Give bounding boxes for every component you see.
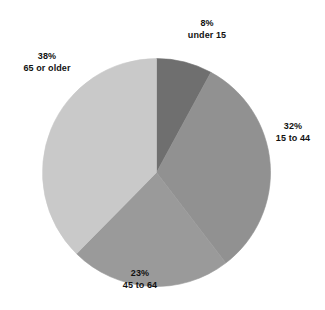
pie-graphic	[0, 0, 325, 310]
pie-label-15-to-44-category: 15 to 44	[262, 132, 324, 144]
pie-label-45-to-64-percent: 23%	[100, 267, 180, 279]
pie-label-45-to-64-category: 45 to 64	[100, 279, 180, 291]
pie-slices	[43, 59, 271, 287]
pie-label-under-15: 8% under 15	[172, 17, 242, 41]
pie-label-under-15-category: under 15	[172, 29, 242, 41]
pie-chart: · · · · · · · · · · · 8% under 15 32% 15…	[0, 0, 325, 310]
pie-label-15-to-44-percent: 32%	[262, 120, 324, 132]
pie-label-45-to-64: 23% 45 to 64	[100, 267, 180, 291]
pie-label-65-or-older-percent: 38%	[6, 50, 88, 62]
pie-label-65-or-older: 38% 65 or older	[6, 50, 88, 74]
pie-label-65-or-older-category: 65 or older	[6, 62, 88, 74]
pie-label-15-to-44: 32% 15 to 44	[262, 120, 324, 144]
pie-label-under-15-percent: 8%	[172, 17, 242, 29]
